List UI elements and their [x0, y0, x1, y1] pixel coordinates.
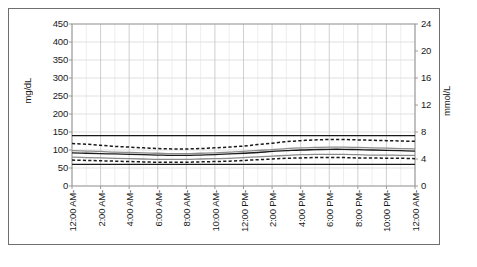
- x-tick-label: 6:00 PM-: [324, 190, 335, 227]
- y-tick-label-left: 350: [36, 54, 68, 65]
- y-tick-label-left: 400: [36, 36, 68, 47]
- y-tick-label-left: 50: [36, 162, 68, 173]
- x-tick-label: 2:00 AM-: [96, 190, 107, 226]
- x-tick-label: 4:00 PM-: [296, 190, 307, 227]
- y-tick-label-left: 0: [36, 180, 68, 191]
- y-tick-label-right: 0: [421, 180, 445, 191]
- x-tick-label: 12:00 PM-: [239, 190, 250, 232]
- y-tick-label-left: 150: [36, 126, 68, 137]
- x-tick-label: 12:00 AM-: [67, 190, 78, 232]
- x-tick-label: 4:00 AM-: [124, 190, 135, 226]
- y-axis-title-left: mg/dL: [22, 78, 33, 103]
- y-tick-label-left: 100: [36, 144, 68, 155]
- y-tick-label-right: 8: [421, 126, 445, 137]
- y-tick-label-right: 4: [421, 153, 445, 164]
- y-tick-label-right: 24: [421, 18, 445, 29]
- y-tick-label-left: 200: [36, 108, 68, 119]
- x-tick-label: 8:00 PM-: [353, 190, 364, 227]
- x-tick-label: 2:00 PM-: [267, 190, 278, 227]
- x-tick-label: 10:00 AM-: [210, 190, 221, 232]
- x-tick-label: 10:00 PM-: [381, 190, 392, 232]
- x-tick-label: 6:00 AM-: [153, 190, 164, 226]
- y-tick-label-left: 250: [36, 90, 68, 101]
- y-tick-label-right: 16: [421, 72, 445, 83]
- y-tick-label-left: 450: [36, 18, 68, 29]
- y-axis-title-right: mmol/L: [441, 86, 452, 116]
- y-tick-label-right: 20: [421, 45, 445, 56]
- x-tick-label: 12:00 AM-: [410, 190, 421, 232]
- y-tick-label-left: 300: [36, 72, 68, 83]
- x-tick-label: 8:00 AM-: [181, 190, 192, 226]
